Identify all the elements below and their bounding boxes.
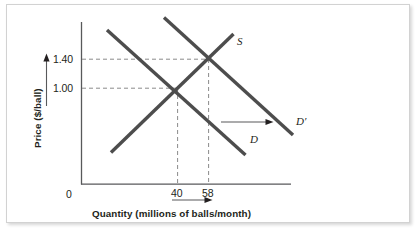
supply-curve-label: S — [237, 35, 243, 47]
price-axis-arrow — [43, 54, 49, 107]
figure-container: Price ($/ball) 1.40 1.00 0 40 58 Quantit… — [0, 0, 420, 241]
y-axis-title: Price ($/ball) — [32, 88, 43, 148]
x-axis-title: Quantity (millions of balls/month) — [92, 208, 251, 219]
demand-shift-arrow — [221, 119, 274, 125]
supply-demand-chart — [0, 0, 420, 241]
x-tick-label-40: 40 — [171, 187, 183, 199]
x-tick-label-58: 58 — [202, 187, 214, 199]
y-tick-label-100: 1.00 — [53, 82, 73, 94]
origin-label: 0 — [66, 188, 72, 200]
demand-curve-initial-label: D — [250, 133, 258, 145]
demand-curve-shifted-label: D′ — [296, 115, 306, 127]
demand-curve-shifted — [164, 18, 293, 136]
y-tick-label-140: 1.40 — [53, 53, 73, 65]
